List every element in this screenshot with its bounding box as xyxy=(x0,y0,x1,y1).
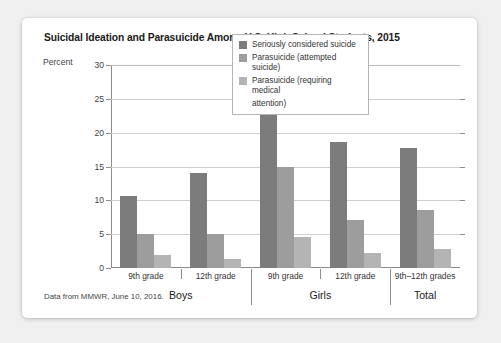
category-label: 9th grade xyxy=(268,271,303,281)
legend-swatch-spacer xyxy=(239,99,247,107)
gridline xyxy=(111,133,460,134)
category-label: 9th grade xyxy=(128,271,163,281)
legend-label: Seriously considered suicide xyxy=(252,40,356,50)
legend-item: Parasuicide (requiring medical xyxy=(239,76,361,96)
legend-item: Parasuicide (attempted suicide) xyxy=(239,53,361,73)
legend-item: attention) xyxy=(239,99,361,109)
bar xyxy=(224,259,241,268)
legend-label: Parasuicide (attempted suicide) xyxy=(252,53,361,73)
y-axis-label: 5 xyxy=(99,229,104,239)
category-label: 12th grade xyxy=(196,271,236,281)
group-label: Boys xyxy=(169,289,193,301)
y-axis-label: 20 xyxy=(94,128,104,138)
y-axis-label: 30 xyxy=(94,60,104,70)
y-axis-label: 15 xyxy=(94,162,104,172)
y-axis-tick xyxy=(106,99,111,100)
y-axis-tick xyxy=(106,65,111,66)
legend-swatch xyxy=(239,41,247,49)
group-label: Total xyxy=(414,289,436,301)
bar xyxy=(294,237,311,268)
bar xyxy=(277,167,294,268)
legend-item: Seriously considered suicide xyxy=(239,40,361,50)
chart-legend: Seriously considered suicideParasuicide … xyxy=(232,34,369,115)
y-axis-tick xyxy=(106,133,111,134)
bar xyxy=(364,253,381,268)
bar xyxy=(434,249,451,268)
y-axis-tick-right xyxy=(460,167,465,168)
legend-swatch xyxy=(239,54,247,62)
legend-label: attention) xyxy=(252,99,286,109)
bar xyxy=(400,148,417,268)
y-axis-tick-right xyxy=(460,234,465,235)
chart-card: Suicidal Ideation and Parasuicide Among … xyxy=(22,18,477,318)
legend-label: Parasuicide (requiring medical xyxy=(252,76,361,96)
category-label: 12th grade xyxy=(335,271,375,281)
bar xyxy=(120,196,137,268)
bar xyxy=(260,89,277,268)
bar xyxy=(137,234,154,268)
bar xyxy=(207,234,224,268)
y-axis-label: 25 xyxy=(94,94,104,104)
category-label: 9th–12th grades xyxy=(395,271,456,281)
bar xyxy=(347,220,364,268)
category-separator-tick xyxy=(181,269,182,279)
y-axis-label: 0 xyxy=(99,263,104,273)
bar xyxy=(190,173,207,268)
bar xyxy=(154,255,171,268)
y-axis-label: 10 xyxy=(94,195,104,205)
y-axis-tick-right xyxy=(460,133,465,134)
group-separator-tick xyxy=(251,269,252,305)
y-axis-tick xyxy=(106,234,111,235)
legend-swatch xyxy=(239,77,247,85)
y-axis-tick-right xyxy=(460,200,465,201)
y-axis-unit-label: Percent xyxy=(43,57,73,67)
y-axis-tick-right xyxy=(460,99,465,100)
group-separator-tick xyxy=(390,269,391,305)
y-axis-tick xyxy=(106,268,111,269)
category-separator-tick xyxy=(320,269,321,279)
y-axis-tick xyxy=(106,200,111,201)
group-label: Girls xyxy=(310,289,332,301)
source-note: Data from MMWR, June 10, 2016. xyxy=(44,292,164,301)
bar xyxy=(330,142,347,268)
bar xyxy=(417,210,434,268)
y-axis-tick xyxy=(106,167,111,168)
